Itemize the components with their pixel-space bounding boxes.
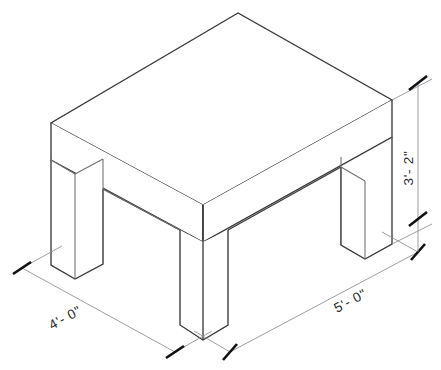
drawing-canvas: 4'- 0" 5'- 0" 3'- 2" — [0, 0, 441, 370]
front-left-leg-left-face — [51, 160, 75, 279]
front-corner-leg — [180, 230, 228, 340]
front-left-leg — [51, 159, 103, 279]
width-dimension-label: 4'- 0" — [46, 303, 84, 333]
front-left-leg-right-face — [75, 159, 103, 279]
height-dimension-label: 3'- 2" — [401, 151, 416, 186]
length-dimension-line — [230, 252, 418, 352]
length-dimension-tick-start — [223, 344, 237, 360]
height-dimension-extension-line-bottom — [392, 224, 432, 244]
height-dimension: 3'- 2" — [392, 76, 432, 252]
height-dimension-extension-line-top — [392, 79, 432, 100]
width-dimension-tick-start — [13, 262, 31, 274]
front-corner-leg-left-face — [180, 230, 203, 340]
right-leg-left-face — [341, 167, 365, 259]
isometric-table-drawing: 4'- 0" 5'- 0" 3'- 2" — [0, 0, 441, 370]
right-leg-right-face — [365, 137, 392, 259]
width-dimension-line — [22, 268, 175, 352]
width-dimension-tick-end — [166, 346, 184, 358]
length-dimension-label: 5'- 0" — [331, 286, 369, 316]
front-corner-leg-right-face — [203, 230, 228, 340]
